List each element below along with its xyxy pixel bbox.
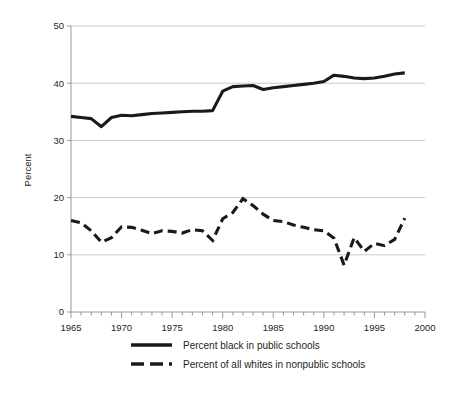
gridlines-group: [71, 26, 425, 255]
legend-label-2: Percent of all whites in nonpublic schoo…: [183, 359, 365, 370]
series-line-1: [71, 73, 405, 127]
x-tick-label-1980: 1980: [212, 322, 233, 333]
y-tick-label-10: 10: [53, 249, 64, 260]
x-tick-label-1990: 1990: [313, 322, 334, 333]
y-tick-label-20: 20: [53, 192, 64, 203]
x-tick-label-1985: 1985: [263, 322, 284, 333]
x-tick-label-1965: 1965: [60, 322, 81, 333]
x-tick-labels-group: 19651970197519801985199019952000: [60, 322, 435, 333]
line-chart: 01020304050 1965197019751980198519901995…: [0, 0, 456, 393]
chart-container: 01020304050 1965197019751980198519901995…: [0, 0, 456, 393]
x-tick-label-2000: 2000: [414, 322, 435, 333]
chart-legend: Percent black in public schoolsPercent o…: [131, 340, 365, 370]
axes-group: [71, 26, 425, 312]
y-tick-label-40: 40: [53, 78, 64, 89]
y-tick-label-0: 0: [59, 306, 64, 317]
y-tick-label-30: 30: [53, 135, 64, 146]
x-tick-label-1995: 1995: [364, 322, 385, 333]
tickmarks-group: [67, 26, 425, 318]
legend-label-1: Percent black in public schools: [183, 340, 320, 351]
y-axis-title: Percent: [22, 153, 33, 186]
series-group: [71, 73, 405, 265]
y-tick-labels-group: 01020304050: [53, 20, 64, 317]
x-tick-label-1975: 1975: [162, 322, 183, 333]
y-tick-label-50: 50: [53, 20, 64, 31]
x-tick-label-1970: 1970: [111, 322, 132, 333]
